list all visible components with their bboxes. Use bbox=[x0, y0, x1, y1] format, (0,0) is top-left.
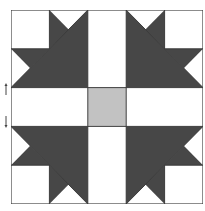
quilt-block bbox=[11, 10, 203, 204]
arrow-up-icon bbox=[3, 83, 9, 95]
center-square bbox=[88, 88, 126, 127]
quilt-block-diagram bbox=[11, 10, 203, 204]
arrow-down-icon bbox=[3, 116, 9, 128]
